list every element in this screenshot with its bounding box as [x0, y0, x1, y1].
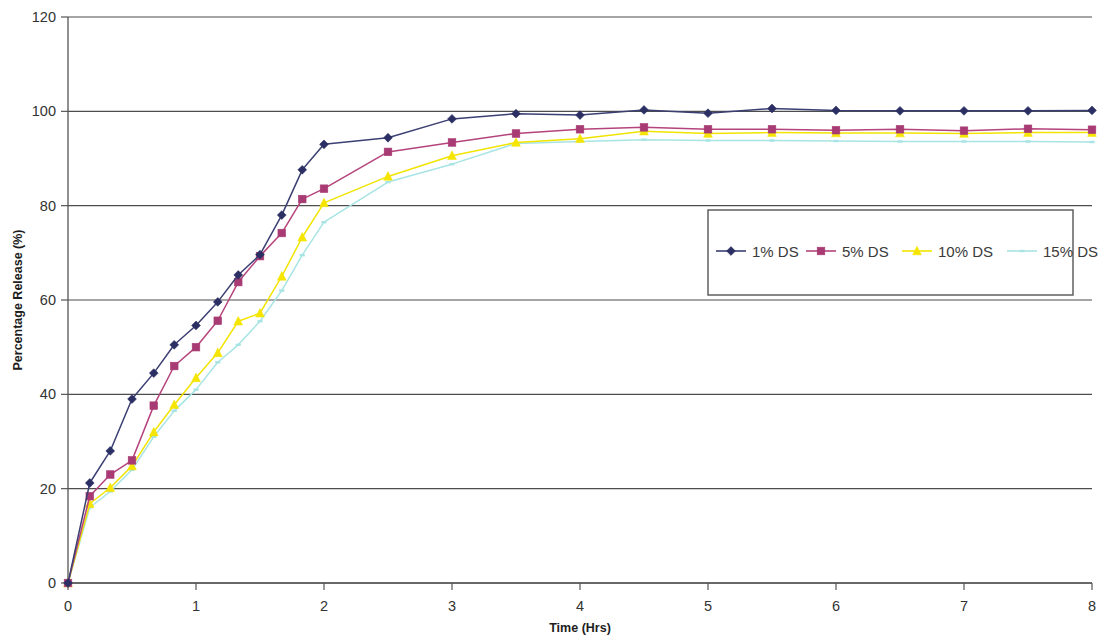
legend-label: 15% DS: [1043, 243, 1098, 260]
data-point: [214, 317, 222, 325]
y-tick-label-40: 40: [40, 386, 56, 402]
x-tick-label-2: 2: [320, 598, 328, 614]
x-axis-title: Time (Hrs): [549, 621, 611, 635]
data-point: [192, 343, 200, 351]
legend: 1% DS5% DS10% DS15% DS: [708, 210, 1098, 295]
y-tick-label-0: 0: [48, 575, 56, 591]
y-tick-label-100: 100: [32, 103, 56, 119]
percentage-release-line-chart: 020406080100120 012345678 Percentage Rel…: [0, 0, 1103, 638]
data-point: [768, 125, 776, 133]
x-tick-label-4: 4: [576, 598, 584, 614]
data-point: [384, 148, 392, 156]
y-tick-label-120: 120: [32, 9, 56, 25]
legend-label: 1% DS: [752, 243, 799, 260]
data-point: [448, 139, 456, 147]
data-point: [170, 362, 178, 370]
data-point: [640, 124, 648, 132]
data-point: [704, 125, 712, 133]
x-tick-label-0: 0: [64, 598, 72, 614]
data-point: [512, 130, 520, 138]
legend-label: 10% DS: [938, 243, 993, 260]
x-tick-label-8: 8: [1088, 598, 1096, 614]
x-tick-label-6: 6: [832, 598, 840, 614]
x-tick-label-3: 3: [448, 598, 456, 614]
x-tick-label-5: 5: [704, 598, 712, 614]
data-point: [896, 125, 904, 133]
data-point: [1088, 126, 1096, 134]
data-point: [576, 125, 584, 133]
data-point: [298, 195, 306, 203]
y-axis-title: Percentage Release (%): [11, 229, 25, 370]
data-point: [278, 229, 286, 237]
data-point: [832, 126, 840, 134]
y-tick-label-20: 20: [40, 481, 56, 497]
y-tick-label-80: 80: [40, 198, 56, 214]
chart-background: [0, 0, 1103, 638]
data-point: [128, 457, 136, 465]
legend-marker: [817, 247, 825, 255]
legend-label: 5% DS: [842, 243, 889, 260]
x-tick-label-1: 1: [192, 598, 200, 614]
data-point: [320, 185, 328, 193]
data-point: [150, 402, 158, 410]
x-tick-label-7: 7: [960, 598, 968, 614]
data-point: [960, 127, 968, 135]
data-point: [106, 471, 114, 479]
chart-container: 020406080100120 012345678 Percentage Rel…: [0, 0, 1103, 638]
data-point: [1024, 125, 1032, 133]
y-tick-label-60: 60: [40, 292, 56, 308]
